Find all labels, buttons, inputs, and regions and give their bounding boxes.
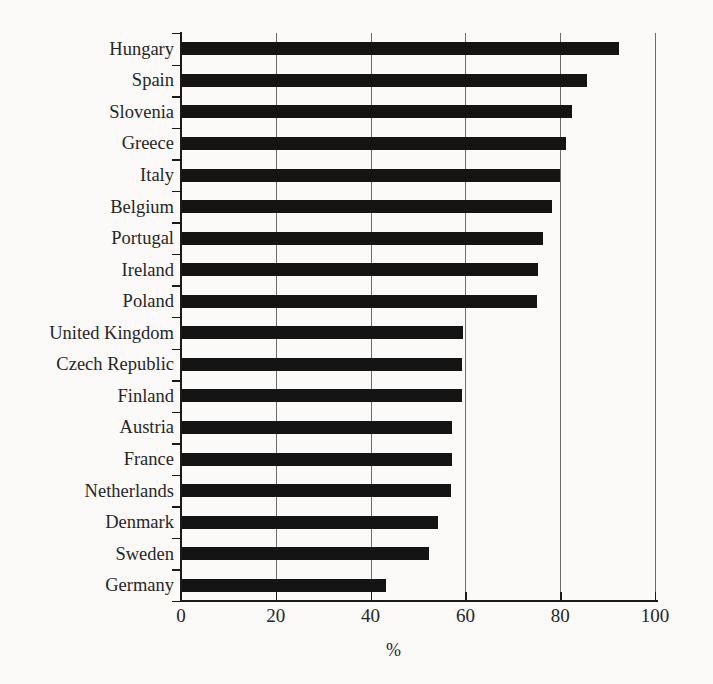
- x-axis-tick-label: 100: [625, 606, 685, 625]
- y-axis-tick: [172, 317, 181, 318]
- gridline: [655, 33, 656, 601]
- x-axis-tick-label: 60: [435, 606, 495, 625]
- y-axis-tick: [172, 285, 181, 286]
- category-label: United Kingdom: [4, 324, 174, 343]
- category-label: Austria: [4, 418, 174, 437]
- x-axis-tick: [465, 592, 466, 601]
- bar: [181, 169, 560, 182]
- bar-chart: HungarySpainSloveniaGreeceItalyBelgiumPo…: [0, 0, 713, 684]
- y-axis-tick: [172, 222, 181, 223]
- category-axis-labels: HungarySpainSloveniaGreeceItalyBelgiumPo…: [0, 33, 174, 601]
- category-label: Belgium: [4, 198, 174, 217]
- category-label: Finland: [4, 387, 174, 406]
- y-axis-tick: [172, 65, 181, 66]
- category-label: Hungary: [4, 40, 174, 59]
- bar: [181, 263, 538, 276]
- category-label: Germany: [4, 576, 174, 595]
- y-axis-tick: [172, 159, 181, 160]
- y-axis-tick: [172, 443, 181, 444]
- bar: [181, 42, 619, 55]
- bar: [181, 295, 537, 308]
- bar: [181, 484, 451, 497]
- bar: [181, 105, 572, 118]
- y-axis-tick: [172, 349, 181, 350]
- category-label: Sweden: [4, 545, 174, 564]
- category-label: Netherlands: [4, 482, 174, 501]
- bar: [181, 453, 452, 466]
- y-axis-tick: [172, 475, 181, 476]
- y-axis-tick: [172, 254, 181, 255]
- x-axis-line: [180, 600, 658, 602]
- x-axis-tick-label: 20: [246, 606, 306, 625]
- category-label: Slovenia: [4, 103, 174, 122]
- category-label: Denmark: [4, 513, 174, 532]
- bar: [181, 421, 452, 434]
- x-axis-tick: [655, 592, 656, 601]
- category-label: Poland: [4, 292, 174, 311]
- x-axis-tick-label: 0: [151, 606, 211, 625]
- x-axis-tick: [181, 592, 182, 601]
- category-label: Portugal: [4, 229, 174, 248]
- y-axis-tick: [172, 191, 181, 192]
- y-axis-tick: [172, 412, 181, 413]
- bar: [181, 74, 587, 87]
- bar: [181, 579, 386, 592]
- y-axis-tick: [172, 538, 181, 539]
- x-axis-tick: [371, 592, 372, 601]
- bar: [181, 358, 462, 371]
- y-axis-tick: [172, 128, 181, 129]
- x-axis-title: %: [0, 640, 713, 661]
- x-axis-title-text: %: [386, 640, 401, 660]
- plot-area: [181, 33, 655, 601]
- x-axis-tick-label: 40: [341, 606, 401, 625]
- bar: [181, 389, 462, 402]
- bar: [181, 200, 552, 213]
- category-label: Ireland: [4, 261, 174, 280]
- y-axis-tick: [172, 33, 181, 34]
- y-axis-tick: [172, 569, 181, 570]
- category-label: Czech Republic: [4, 355, 174, 374]
- y-axis-tick: [172, 380, 181, 381]
- category-label: France: [4, 450, 174, 469]
- bar: [181, 232, 543, 245]
- y-axis-tick: [172, 96, 181, 97]
- category-label: Spain: [4, 71, 174, 90]
- bar: [181, 137, 566, 150]
- y-axis-tick: [172, 506, 181, 507]
- y-axis-tick: [172, 601, 181, 602]
- category-label: Greece: [4, 134, 174, 153]
- x-axis-tick-label: 80: [530, 606, 590, 625]
- category-label: Italy: [4, 166, 174, 185]
- x-axis-tick: [560, 592, 561, 601]
- bar: [181, 516, 438, 529]
- x-axis-tick: [276, 592, 277, 601]
- bar: [181, 547, 429, 560]
- bar: [181, 326, 463, 339]
